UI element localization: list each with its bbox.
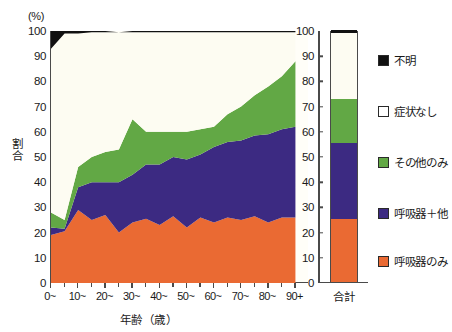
legend-swatch-icon xyxy=(378,55,389,66)
x-tick-mark xyxy=(199,283,200,287)
total-tick-label: 70 xyxy=(268,101,314,113)
total-bar-segment xyxy=(331,143,357,219)
y-axis-unit: (%) xyxy=(28,10,44,22)
y-tick-label: 100 xyxy=(0,25,46,37)
x-tick-mark xyxy=(186,283,187,288)
legend-item: 呼吸器＋他 xyxy=(378,205,448,221)
y-tick-label: 20 xyxy=(0,227,46,239)
y-tick-label: 30 xyxy=(0,201,46,213)
x-tick-mark xyxy=(213,283,214,288)
total-bar-segment xyxy=(331,219,357,282)
total-tick-label: 90 xyxy=(268,50,314,62)
total-bar-segment xyxy=(331,30,357,33)
total-tick-label: 60 xyxy=(268,126,314,138)
total-tick-mark xyxy=(319,156,323,157)
total-tick-label: 20 xyxy=(268,227,314,239)
y-tick-label: 0 xyxy=(0,277,46,289)
legend-item: 症状なし xyxy=(378,103,437,119)
x-tick-mark xyxy=(50,283,51,288)
x-axis-label: 年齢（歳） xyxy=(120,311,177,327)
y-tick-label: 40 xyxy=(0,176,46,188)
total-tick-label: 10 xyxy=(268,252,314,264)
total-tick-mark xyxy=(319,81,323,82)
total-tick-mark xyxy=(319,257,323,258)
legend-label: 不明 xyxy=(394,52,415,68)
stacked-area-chart: (%) 割合 0102030405060708090100 0~10~20~30… xyxy=(0,0,452,332)
x-tick-mark xyxy=(91,283,92,287)
total-bar-label: 合計 xyxy=(321,288,367,304)
y-tick-label: 50 xyxy=(0,151,46,163)
total-stacked-bar xyxy=(330,31,358,283)
x-tick-mark xyxy=(104,283,105,288)
total-tick-mark xyxy=(319,207,323,208)
x-tick-mark xyxy=(227,283,228,287)
y-tick-label: 60 xyxy=(0,126,46,138)
legend-swatch-icon xyxy=(378,106,389,117)
total-tick-mark xyxy=(319,181,323,182)
total-tick-mark xyxy=(319,106,323,107)
legend-item: その他のみ xyxy=(378,154,448,170)
x-tick-mark xyxy=(159,283,160,288)
legend-item: 呼吸器のみ xyxy=(378,253,448,269)
x-tick-mark xyxy=(254,283,255,287)
y-tick-label: 80 xyxy=(0,75,46,87)
total-tick-mark xyxy=(319,131,323,132)
legend-swatch-icon xyxy=(378,157,389,168)
total-tick-label: 100 xyxy=(268,25,314,37)
x-tick-label: 90+ xyxy=(274,290,314,302)
total-tick-label: 40 xyxy=(268,176,314,188)
x-tick-mark xyxy=(240,283,241,288)
legend-swatch-icon xyxy=(378,208,389,219)
y-tick-label: 10 xyxy=(0,252,46,264)
x-tick-mark xyxy=(118,283,119,287)
legend-item: 不明 xyxy=(378,52,415,68)
total-bar-segment xyxy=(331,33,357,100)
total-tick-mark xyxy=(319,55,323,56)
legend-label: 呼吸器のみ xyxy=(394,253,448,269)
total-bar-segment xyxy=(331,99,357,143)
x-tick-mark xyxy=(131,283,132,288)
total-tick-label: 80 xyxy=(268,75,314,87)
area-series xyxy=(51,210,295,283)
legend-swatch-icon xyxy=(378,256,389,267)
x-tick-mark xyxy=(145,283,146,287)
total-tick-label: 0 xyxy=(268,277,314,289)
total-tick-label: 50 xyxy=(268,151,314,163)
x-tick-mark xyxy=(172,283,173,287)
y-tick-label: 70 xyxy=(0,101,46,113)
total-baseline xyxy=(318,282,368,283)
total-tick-mark xyxy=(319,232,323,233)
legend-label: その他のみ xyxy=(394,154,448,170)
legend-label: 呼吸器＋他 xyxy=(394,205,448,221)
total-tick-label: 30 xyxy=(268,201,314,213)
legend-label: 症状なし xyxy=(394,103,437,119)
x-tick-mark xyxy=(77,283,78,288)
y-tick-label: 90 xyxy=(0,50,46,62)
x-tick-mark xyxy=(64,283,65,287)
